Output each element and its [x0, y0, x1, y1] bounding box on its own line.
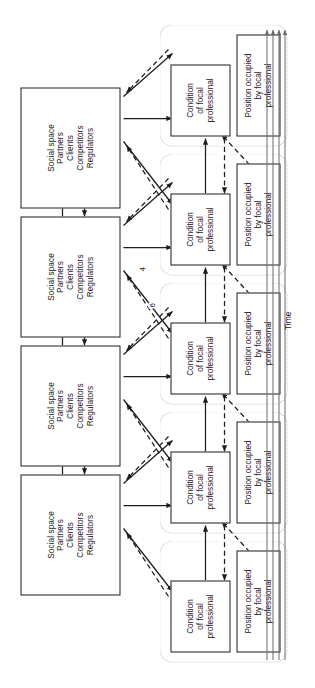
social-space-box-4[interactable]: Social space Partners Clients Competitor…: [20, 87, 120, 208]
social-space-title: Social space: [46, 253, 56, 301]
social-space-actor: Regulators: [85, 385, 95, 426]
condition-line: Condition: [185, 599, 195, 634]
social-space-box-2[interactable]: Social space Partners Clients Competitor…: [20, 345, 120, 466]
social-space-box-3[interactable]: Social space Partners Clients Competitor…: [20, 216, 120, 337]
time-axis: Time: [257, 0, 311, 688]
social-space-box-1[interactable]: Social space Partners Clients Competitor…: [20, 474, 120, 595]
social-space-actor: Partners: [55, 390, 65, 422]
condition-line: of focal: [195, 474, 205, 500]
position-line: Position occupied: [243, 440, 253, 504]
social-space-actor: Competitors: [75, 254, 85, 299]
social-space-actor: Regulators: [85, 256, 95, 297]
social-space-actor: Regulators: [85, 127, 95, 168]
condition-line: of focal: [195, 603, 205, 629]
edge-label-6: 6: [148, 302, 156, 308]
condition-box-4[interactable]: Condition of focal professional: [170, 193, 230, 265]
condition-line: Condition: [185, 341, 195, 376]
social-space-actor: Regulators: [85, 514, 95, 555]
condition-box-5[interactable]: Condition of focal professional: [170, 64, 230, 136]
position-line: Position occupied: [243, 182, 253, 246]
condition-box-2[interactable]: Condition of focal professional: [170, 451, 230, 523]
social-space-actor: Partners: [55, 519, 65, 551]
social-space-actor: Competitors: [75, 125, 85, 170]
condition-box-3[interactable]: Condition of focal professional: [170, 322, 230, 394]
position-line: Position occupied: [243, 53, 253, 117]
condition-line: of focal: [195, 345, 205, 371]
condition-line: Condition: [185, 83, 195, 118]
condition-line: of focal: [195, 216, 205, 242]
social-space-actor: Partners: [55, 261, 65, 293]
social-space-actor: Competitors: [75, 383, 85, 428]
social-space-actor: Clients: [65, 264, 75, 290]
social-space-actor: Clients: [65, 522, 75, 548]
time-axis-label: Time: [283, 312, 293, 330]
condition-line: professional: [205, 336, 215, 380]
position-line: Position occupied: [243, 569, 253, 633]
condition-box-1[interactable]: Condition of focal professional: [170, 580, 230, 652]
condition-line: professional: [205, 207, 215, 251]
social-space-title: Social space: [46, 511, 56, 559]
edge-label-4: 4: [138, 266, 146, 272]
condition-line: professional: [205, 78, 215, 122]
condition-line: professional: [205, 465, 215, 509]
social-space-actor: Clients: [65, 135, 75, 161]
time-axis-lines: [257, 0, 311, 688]
condition-line: professional: [205, 594, 215, 638]
diagram-canvas: Social space Partners Clients Competitor…: [0, 0, 315, 688]
social-space-title: Social space: [46, 382, 56, 430]
social-space-actor: Clients: [65, 393, 75, 419]
social-space-actor: Partners: [55, 132, 65, 164]
condition-line: Condition: [185, 212, 195, 247]
social-space-title: Social space: [46, 124, 56, 172]
condition-line: of focal: [195, 87, 205, 113]
position-line: Position occupied: [243, 311, 253, 375]
condition-line: Condition: [185, 470, 195, 505]
social-space-actor: Competitors: [75, 512, 85, 557]
